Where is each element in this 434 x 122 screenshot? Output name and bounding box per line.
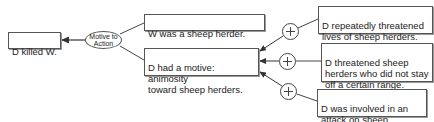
support-node-repeated-threats[interactable]: D repeatedly threatened lives of sheep h… [318,6,433,34]
edge-support3-to-plus [297,94,317,101]
inference-label: Motive to Action [89,33,117,48]
edge-premise1-to-inference [120,23,144,34]
plus-icon [280,83,297,100]
edge-plus1-to-premise2 [260,36,283,51]
conclusion-node[interactable]: D killed W. [8,32,61,49]
premise-label: W was a sheep herder. [148,28,245,39]
motive-to-action-ellipse[interactable]: Motive to Action [85,31,122,49]
edge-support1-to-plus [298,19,318,28]
edge-premise2-to-inference [120,46,144,60]
support-node-attack[interactable]: D was involved in an attack on sheep her… [317,89,427,117]
plus-icon [279,53,296,70]
premise-node-sheep-herder[interactable]: W was a sheep herder. [144,14,265,31]
plus-icon [282,23,299,40]
premise-node-motive[interactable]: D had a motive: animosity toward sheep h… [144,48,259,76]
conclusion-label: D killed W. [12,46,57,57]
support-label: D repeatedly threatened lives of sheep h… [322,20,424,42]
edge-plus3-to-premise2 [260,72,282,86]
support-node-range-threats[interactable]: D threatened sheep herders who did not s… [321,43,433,82]
